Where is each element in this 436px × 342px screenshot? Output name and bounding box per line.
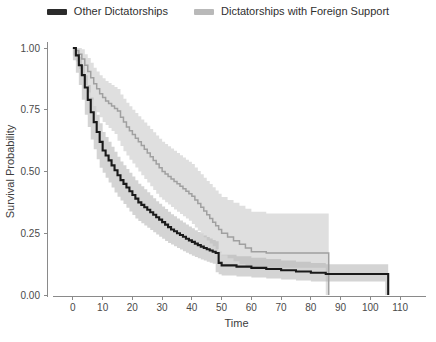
chart-legend: Other Dictatorships Dictatorships with F…	[0, 6, 436, 17]
y-tick-label: 0.75	[21, 104, 41, 115]
legend-label-foreign-support: Dictatorships with Foreign Support	[221, 6, 389, 17]
survival-chart-figure: Other Dictatorships Dictatorships with F…	[0, 0, 436, 342]
x-tick-label: 70	[276, 302, 288, 313]
x-tick-label: 80	[305, 302, 317, 313]
y-tick-label: 0.25	[21, 228, 41, 239]
x-tick-label: 0	[70, 302, 76, 313]
y-axis-title: Survival Probability	[4, 124, 16, 218]
x-tick-label: 30	[157, 302, 169, 313]
x-tick-label: 40	[186, 302, 198, 313]
x-tick-label: 90	[335, 302, 347, 313]
x-tick-label: 60	[246, 302, 258, 313]
legend-item-other-dictatorships: Other Dictatorships	[47, 6, 168, 17]
legend-item-foreign-support: Dictatorships with Foreign Support	[194, 6, 389, 17]
survival-curve-plot: 01020304050607080901001100.000.250.500.7…	[0, 26, 436, 342]
x-tick-label: 20	[127, 302, 139, 313]
y-tick-label: 0.50	[21, 166, 41, 177]
legend-swatch-foreign-support	[194, 9, 214, 15]
x-tick-label: 50	[216, 302, 228, 313]
legend-swatch-other-dictatorships	[47, 9, 67, 15]
x-axis-title: Time	[224, 317, 248, 329]
confidence-band-other-dictatorships	[73, 48, 388, 295]
legend-label-other-dictatorships: Other Dictatorships	[74, 6, 168, 17]
x-tick-label: 110	[392, 302, 408, 313]
x-tick-label: 10	[97, 302, 109, 313]
plot-area: 01020304050607080901001100.000.250.500.7…	[0, 26, 436, 342]
x-tick-label: 100	[362, 302, 379, 313]
y-tick-label: 1.00	[21, 43, 41, 54]
y-tick-label: 0.00	[21, 290, 41, 301]
